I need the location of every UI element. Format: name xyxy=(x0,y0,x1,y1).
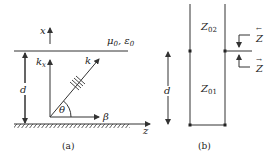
thickness-label: d xyxy=(20,84,26,95)
kx-label: kx xyxy=(36,56,46,69)
panel-b: Z02 Z01 d ← Z → Z (b) xyxy=(164,4,264,151)
thickness-label-b: d xyxy=(164,85,170,96)
z-right-label: Z xyxy=(255,63,264,74)
panel-a: x μ0, ε0 d kx k β θ xyxy=(14,25,150,151)
node-right-bottom xyxy=(224,124,227,127)
z-axis-label: z xyxy=(142,125,149,136)
z02-label: Z02 xyxy=(200,21,217,34)
node-left-top xyxy=(189,50,192,53)
beta-label: β xyxy=(102,111,109,122)
k-vector-arrow xyxy=(50,59,99,117)
theta-label: θ xyxy=(59,104,65,115)
z-left-label: Z xyxy=(255,33,264,44)
z01-label: Z01 xyxy=(200,83,217,96)
upper-medium-label: μ0, ε0 xyxy=(107,35,135,48)
x-axis-label: x xyxy=(40,25,46,36)
caption-a: (a) xyxy=(62,141,74,151)
node-left-bottom xyxy=(189,124,192,127)
caption-b: (b) xyxy=(198,141,211,151)
ground-hatch xyxy=(14,124,130,128)
z-left-arrow-glyph: ← xyxy=(256,25,262,33)
k-label: k xyxy=(85,55,91,66)
diagram-canvas: x μ0, ε0 d kx k β θ xyxy=(0,0,280,164)
